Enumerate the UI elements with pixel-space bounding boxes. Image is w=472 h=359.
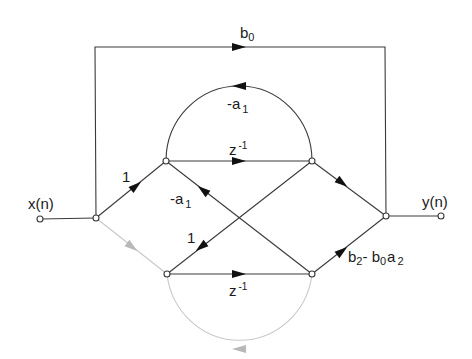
node-upper-left [163, 158, 169, 164]
edge-upper-delay [166, 157, 312, 165]
edge-upper-right-to-sum [312, 161, 386, 216]
node-input [37, 216, 43, 222]
edge-input [40, 218, 96, 219]
label-lower-right-gain: b2- b0a2 [348, 248, 404, 267]
label-upper-arc-gain: -a1 [227, 95, 248, 115]
edge-lower-delay [167, 270, 312, 278]
arrow-left-icon [232, 345, 246, 353]
arrow-right-icon [232, 157, 246, 165]
label-lower-delay: z-1 [229, 281, 248, 299]
label-cross-minus-a1: -a1 [170, 190, 191, 210]
label-gain-one-mid: 1 [187, 229, 195, 246]
edge-b0-bypass [95, 43, 386, 218]
edge-split-to-lower-left [96, 218, 167, 274]
label-upper-delay: z-1 [229, 140, 248, 158]
node-lower-right [309, 271, 315, 277]
node-sum [383, 213, 389, 219]
node-lower-left [164, 271, 170, 277]
node-split [93, 215, 99, 221]
node-output [438, 213, 444, 219]
edge-split-to-upper-left [96, 161, 166, 218]
label-b0: b0 [240, 24, 254, 43]
signal-flow-graph: b0 -a1 z-1 1 -a1 1 z-1 b2- b0a2 x(n) y(n… [0, 0, 472, 359]
node-upper-right [309, 158, 315, 164]
arrow-right-icon [232, 43, 246, 51]
arrow-left-icon [232, 82, 246, 90]
label-gain-one-top: 1 [122, 168, 130, 185]
edge-lower-right-to-sum [312, 216, 386, 274]
label-output: y(n) [422, 193, 448, 210]
label-input: x(n) [28, 195, 54, 212]
arrow-right-icon [232, 270, 246, 278]
